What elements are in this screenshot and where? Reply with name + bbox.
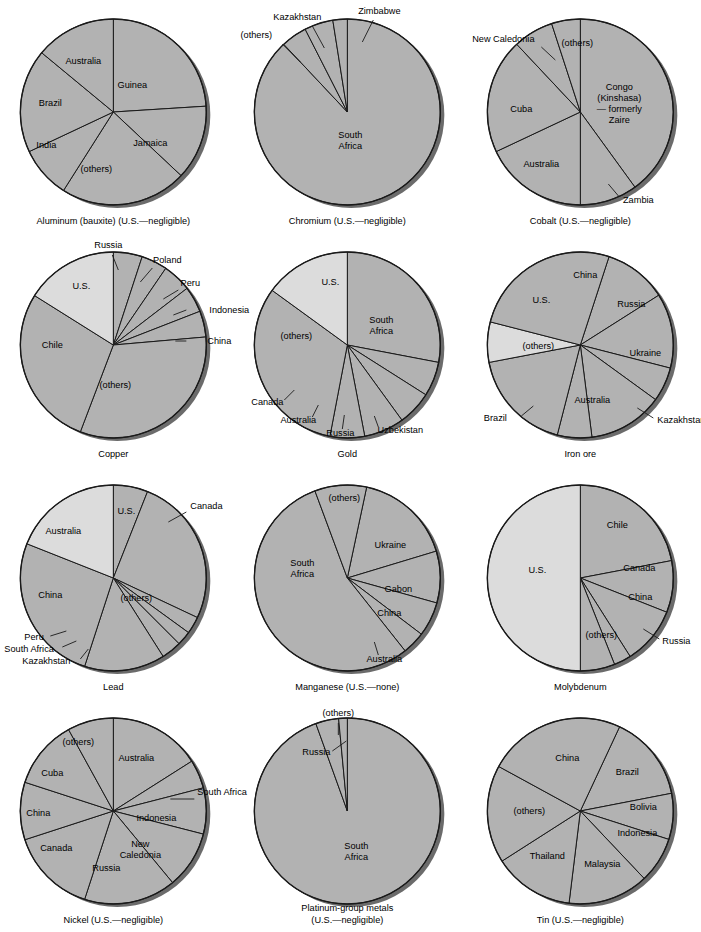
pie-slices (20, 19, 206, 205)
slice-label: Australia (45, 526, 82, 536)
slice-label: Australia (280, 415, 317, 425)
pie-chart-molybdenum: ChileCanadaChinaRussia(others)U.S.Molybd… (467, 466, 701, 699)
pie-chart-lead: U.S.Canada(others)KazakhstanSouth Africa… (0, 466, 234, 699)
slice-label: Indonesia (618, 828, 659, 838)
slice-label: Russia (92, 863, 121, 873)
slice-label: Russia (326, 428, 355, 438)
slice-label: Brazil (484, 413, 507, 423)
slice-label: China (629, 592, 654, 602)
slice-label: India (36, 140, 57, 150)
slice-label: U.S. (529, 565, 547, 575)
slice-label: Indonesia (136, 813, 177, 823)
slice-label: (others) (240, 30, 272, 40)
slice-label: Brazil (616, 767, 639, 777)
chart-caption: Aluminum (bauxite) (U.S.—negligible) (36, 216, 190, 226)
slice-label: SouthAfrica (344, 841, 369, 862)
slice-label: China (574, 270, 599, 280)
slice-label: Australia (575, 395, 612, 405)
slice-label: (others) (121, 593, 153, 603)
slice-label: South Africa (4, 644, 54, 654)
pie-chart-manganese: (others)UkraineGabonChinaAustraliaSouthA… (234, 466, 468, 699)
chart-caption: Iron ore (565, 449, 597, 459)
pie-chart-cobalt: Congo(Kinshasa)— formerlyZaireZambiaAust… (467, 0, 701, 233)
chart-caption: Tin (U.S.—negligible) (537, 915, 624, 925)
slice-label: (others) (100, 380, 132, 390)
pie-slices (488, 485, 674, 671)
chart-caption: Cobalt (U.S.—negligible) (530, 216, 631, 226)
pie-slice-guinea (113, 19, 206, 112)
slice-label: Thailand (530, 851, 565, 861)
slice-label: Zambia (623, 195, 655, 205)
slice-label: (others) (322, 708, 354, 718)
chart-caption: Copper (98, 449, 128, 459)
slice-label: China (38, 590, 63, 600)
slice-label: Guinea (118, 80, 149, 90)
slice-label: Malaysia (585, 859, 622, 869)
slice-label: Peru (24, 632, 43, 642)
pie-chart-platinum-group: SouthAfricaRussia(others)Platinum-group … (234, 699, 468, 932)
slice-label: China (26, 808, 51, 818)
slice-label: (others) (63, 737, 95, 747)
slice-label: (others) (562, 38, 594, 48)
pie-chart-copper: RussiaPolandPeruIndonesiaChina(others)Ch… (0, 233, 234, 466)
slice-label: Chile (42, 340, 63, 350)
pie-slices (254, 19, 440, 205)
slice-label: U.S. (533, 295, 551, 305)
slice-label: Canada (624, 563, 657, 573)
slice-label: Jamaica (133, 138, 168, 148)
slice-label: Gabon (384, 584, 412, 594)
pie-chart-iron-ore: ChinaRussiaUkraineKazakhstanAustraliaBra… (467, 233, 701, 466)
slice-label: Canada (190, 501, 223, 511)
slice-label: China (207, 336, 232, 346)
pie-slice-u-s (488, 485, 581, 671)
slice-label: Cuba (41, 768, 64, 778)
slice-label: (others) (523, 341, 555, 351)
chart-caption: Manganese (U.S.—none) (295, 682, 399, 692)
chart-caption: Lead (103, 682, 123, 692)
slice-label: Kazakhstan (22, 656, 70, 666)
slice-label: Kazakhstan (273, 12, 321, 22)
chart-caption: Chromium (U.S.—negligible) (289, 216, 406, 226)
slice-label: Australia (366, 654, 403, 664)
pie-chart-nickel: AustraliaSouth AfricaIndonesiaNewCaledon… (0, 699, 234, 932)
slice-label: Peru (181, 278, 200, 288)
pie-slice-south-africa (347, 252, 440, 362)
slice-label: (others) (586, 630, 618, 640)
slice-label: Ukraine (374, 540, 406, 550)
slice-label: Cuba (511, 104, 534, 114)
slice-label: Kazakhstan (658, 415, 701, 425)
slice-label: Russia (302, 747, 331, 757)
slice-label: (others) (280, 331, 312, 341)
slice-label: (others) (514, 806, 546, 816)
slice-label: Brazil (39, 98, 62, 108)
slice-label: Australia (65, 56, 102, 66)
pie-chart-gold: SouthAfricaUzbekistanRussiaAustraliaCana… (234, 233, 468, 466)
slice-label: China (556, 753, 581, 763)
chart-caption: Gold (337, 449, 356, 459)
pie-slices (254, 718, 440, 904)
pie-chart-chromium: SouthAfrica(others)KazakhstanZimbabweChr… (234, 0, 468, 233)
slice-label: Poland (153, 255, 182, 265)
pie-slices (254, 485, 440, 671)
slice-label: Bolivia (630, 802, 658, 812)
slice-label: New Caledonia (473, 34, 536, 44)
slice-label: Canada (40, 843, 73, 853)
slice-label: (others) (81, 164, 113, 174)
slice-label: China (377, 608, 402, 618)
pie-chart-aluminum: GuineaJamaica(others)IndiaBrazilAustrali… (0, 0, 234, 233)
slice-label: Australia (524, 159, 561, 169)
chart-caption: Molybdenum (554, 682, 607, 692)
slice-label: Canada (251, 397, 284, 407)
slice-label: Russia (94, 240, 123, 250)
slice-label: Russia (663, 636, 692, 646)
slice-label: Ukraine (630, 348, 662, 358)
slice-label: U.S. (117, 506, 135, 516)
slice-label: U.S. (321, 277, 339, 287)
slice-label: Zimbabwe (358, 6, 400, 16)
slice-label: SouthAfrica (369, 315, 394, 336)
pie-slices (254, 252, 440, 438)
chart-caption: Platinum-group metals(U.S.—negligible) (301, 903, 393, 925)
slice-label: SouthAfrica (338, 130, 363, 151)
slice-label: U.S. (72, 281, 90, 291)
slice-label: Australia (118, 753, 155, 763)
